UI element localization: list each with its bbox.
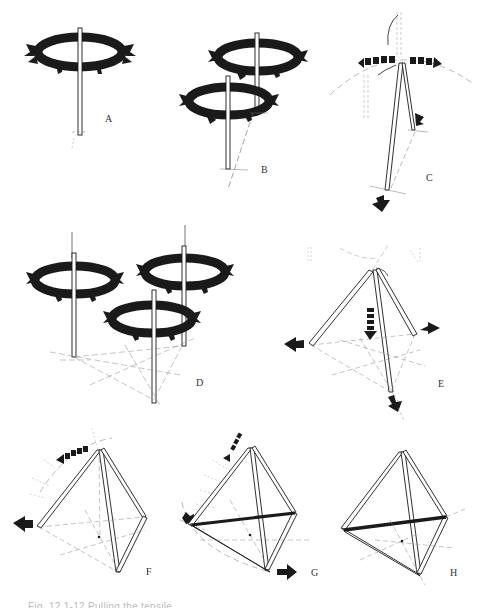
panel-label-f: F	[146, 566, 152, 577]
figure-caption: Fig. 12.1-12 Pulling the tensile...	[28, 599, 428, 608]
dashed-rotation-arrow-right	[410, 57, 442, 68]
outward-arrow-down	[388, 395, 402, 412]
outward-arrow-left	[284, 337, 304, 352]
panel-a: A	[0, 0, 160, 200]
dashed-diagonal-arrow	[223, 432, 242, 462]
tetrahedron-struts	[341, 450, 448, 576]
strut-with-force-ring-diagram	[0, 0, 160, 200]
panel-label-e: E	[438, 378, 444, 389]
panel-e: E	[260, 230, 482, 420]
panel-label-g: G	[311, 567, 318, 578]
tripod-diagram	[260, 230, 482, 420]
three-struts-diagram	[0, 210, 250, 410]
two-struts-with-force-rings-diagram	[160, 0, 320, 220]
tetrahedron-struts	[188, 446, 297, 572]
thrust-arrow-down	[372, 195, 390, 212]
panel-g: G	[160, 420, 330, 590]
strut	[78, 28, 82, 135]
thrust-arrow-right	[415, 113, 424, 126]
tetrahedron-frame-f-diagram	[0, 420, 170, 590]
outward-arrow-left	[13, 516, 33, 532]
tetrahedron-frame-h-diagram	[320, 420, 482, 590]
panel-h: H	[320, 420, 482, 590]
panel-d: D	[0, 210, 250, 410]
leaning-struts-diagram	[320, 0, 482, 230]
panel-label-h: H	[450, 567, 457, 578]
dashed-rotation-arrow-left	[358, 56, 395, 68]
tripod-legs	[309, 268, 417, 392]
panel-label-c: C	[426, 172, 433, 183]
tension-member	[344, 517, 446, 530]
panel-label-b: B	[261, 164, 268, 175]
leaning-strut-pair	[385, 63, 415, 190]
outward-arrow-right	[420, 322, 440, 334]
outward-arrow-right	[277, 564, 297, 580]
figure-diagram: A	[0, 0, 482, 608]
panel-label-a: A	[105, 113, 112, 124]
tetrahedron-struts	[37, 448, 147, 572]
tetrahedron-frame-g-diagram	[160, 420, 330, 590]
dashed-curved-arrow	[56, 446, 88, 464]
panel-f: F	[0, 420, 170, 590]
panel-b: B	[160, 0, 320, 220]
panel-c: C	[320, 0, 482, 230]
panel-label-d: D	[196, 377, 203, 388]
dashed-downward-arrow	[364, 308, 377, 340]
